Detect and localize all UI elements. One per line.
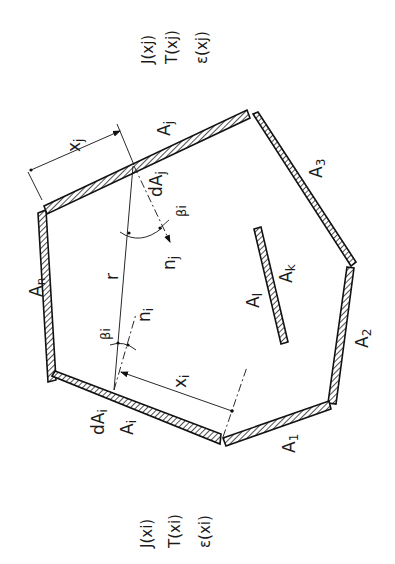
label-ak: Ak	[276, 264, 298, 283]
xi-centerline	[223, 367, 247, 437]
label-xi: xi	[170, 375, 192, 388]
property-i-emissivity: ε(xi)	[196, 515, 214, 548]
xj-extension-left	[28, 172, 42, 200]
angle-i-dot-r	[116, 341, 119, 344]
xj-extension-right	[117, 124, 134, 165]
wall-aj	[44, 110, 250, 214]
property-i-temperature: T(xi)	[166, 514, 184, 549]
wall-a2	[328, 267, 354, 404]
property-j-emissivity: ε(xj)	[193, 31, 211, 64]
angle-j-dot-r	[127, 231, 130, 234]
label-a3: A3	[306, 159, 328, 178]
xj-origin-dot	[29, 168, 32, 171]
label-an: An	[26, 278, 48, 297]
wall-a1	[223, 401, 331, 446]
label-al: Al	[243, 293, 265, 308]
label-r: r	[102, 273, 122, 280]
enclosure-diagram: An Aj A3 A2 A1 Ai dAi Ak Al dAj xj xi r …	[0, 0, 395, 564]
label-beta-j: βi	[174, 205, 189, 217]
label-xj: xj	[64, 139, 86, 152]
plate-ak	[254, 227, 288, 344]
property-j-radiosity: J(xj)	[139, 35, 157, 65]
property-j-temperature: T(xj)	[163, 30, 181, 65]
label-aj: Aj	[154, 121, 176, 136]
property-i-radiosity: J(xi)	[138, 519, 156, 549]
label-daj: dAj	[146, 171, 168, 197]
angle-arc-i	[110, 343, 136, 350]
label-dai: dAi	[88, 409, 110, 435]
label-ai: Ai	[117, 420, 139, 435]
label-ni: ni	[134, 308, 156, 322]
label-beta-i: βi	[98, 328, 113, 340]
label-a2: A2	[352, 329, 374, 348]
angle-i-dot-n	[126, 343, 129, 346]
label-nj: nj	[159, 256, 181, 270]
label-a1: A1	[279, 434, 301, 453]
wall-a3	[253, 112, 356, 266]
angle-arc-j	[120, 228, 162, 238]
